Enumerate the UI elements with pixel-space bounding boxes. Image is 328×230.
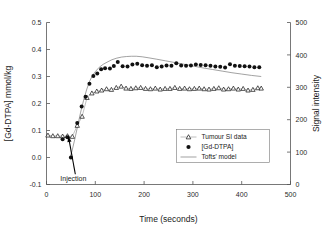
marker-tumour-si — [90, 91, 94, 95]
marker-tumour-si — [153, 86, 157, 90]
y-tick-label: 0.4 — [32, 46, 42, 53]
marker-tumour-si — [173, 85, 177, 89]
x-axis-ticks: 0100200300400500 — [45, 181, 297, 198]
y-tick-label: 0.5 — [32, 19, 42, 26]
marker-tumour-si — [197, 86, 201, 90]
marker-gd-dtpa — [116, 60, 120, 64]
marker-gd-dtpa — [135, 62, 139, 66]
marker-gd-dtpa — [204, 63, 208, 67]
injection-label: Injection — [60, 175, 86, 183]
marker-tumour-si — [241, 86, 245, 90]
legend-item-label: Tofts' model — [202, 153, 238, 160]
marker-gd-dtpa — [126, 65, 130, 69]
marker-gd-dtpa — [243, 64, 247, 68]
y2-axis-title: Signal intensity — [311, 74, 321, 132]
marker-gd-dtpa — [108, 66, 112, 70]
marker-gd-dtpa — [91, 74, 95, 78]
series-line-tumour-si — [48, 86, 261, 136]
marker-gd-dtpa — [160, 65, 164, 69]
marker-gd-dtpa — [130, 63, 134, 67]
annotation-layer: Injection — [60, 137, 86, 184]
y2-tick-label: 500 — [296, 19, 308, 26]
marker-gd-dtpa — [145, 64, 149, 68]
marker-gd-dtpa — [155, 65, 159, 69]
x-tick-label: 0 — [45, 191, 49, 198]
marker-gd-dtpa — [140, 63, 144, 67]
marker-gd-dtpa — [194, 63, 198, 67]
x-tick-label: 100 — [89, 191, 101, 198]
marker-gd-dtpa — [87, 82, 91, 86]
marker-gd-dtpa — [223, 66, 227, 70]
marker-gd-dtpa — [179, 63, 183, 67]
marker-gd-dtpa — [174, 61, 178, 65]
marker-gd-dtpa — [121, 64, 125, 68]
y2-tick-label: 300 — [296, 84, 308, 91]
y-tick-label: -0.1 — [29, 181, 41, 188]
x-axis-title: Time (seconds) — [139, 214, 197, 224]
axis-titles: Time (seconds)[Gd-DTPA] mmol/kgSignal in… — [3, 66, 321, 224]
marker-gd-dtpa — [189, 63, 193, 67]
x-tick-label: 200 — [138, 191, 150, 198]
y2-tick-label: 400 — [296, 52, 308, 59]
x-tick-label: 500 — [285, 191, 297, 198]
chart-figure: 0100200300400500 -0.10.00.10.20.30.40.5 … — [0, 0, 328, 230]
legend-marker-gd-dtpa — [186, 145, 190, 149]
marker-gd-dtpa — [208, 64, 212, 68]
marker-gd-dtpa — [213, 65, 217, 69]
marker-tumour-si — [138, 85, 142, 89]
marker-gd-dtpa — [165, 63, 169, 67]
y2-tick-label: 100 — [296, 149, 308, 156]
y-axis-title: [Gd-DTPA] mmol/kg — [3, 66, 13, 142]
marker-tumour-si — [231, 86, 235, 90]
marker-gd-dtpa — [218, 65, 222, 69]
marker-gd-dtpa — [61, 137, 65, 141]
marker-gd-dtpa — [80, 104, 84, 108]
marker-gd-dtpa — [75, 121, 79, 125]
marker-tumour-si — [80, 114, 84, 118]
y-tick-label: 0.0 — [32, 154, 42, 161]
marker-gd-dtpa — [150, 63, 154, 67]
y2-tick-label: 0 — [296, 181, 300, 188]
marker-gd-dtpa — [257, 65, 261, 69]
marker-tumour-si — [119, 84, 123, 88]
legend-item-label: Tumour SI data — [202, 133, 248, 140]
x-tick-label: 300 — [187, 191, 199, 198]
marker-gd-dtpa — [84, 95, 88, 99]
marker-tumour-si — [251, 87, 255, 91]
marker-tumour-si — [182, 86, 186, 90]
marker-tumour-si — [104, 87, 108, 91]
marker-gd-dtpa — [95, 72, 99, 76]
legend-item-label: [Gd-DTPA] — [202, 143, 234, 151]
marker-gd-dtpa — [169, 64, 173, 68]
marker-gd-dtpa — [103, 66, 107, 70]
marker-gd-dtpa — [199, 63, 203, 67]
marker-tumour-si — [124, 86, 128, 90]
marker-gd-dtpa — [184, 64, 188, 68]
y2-tick-label: 200 — [296, 116, 308, 123]
marker-gd-dtpa — [228, 62, 232, 66]
marker-gd-dtpa — [252, 65, 256, 69]
marker-tumour-si — [217, 86, 221, 90]
y-axis-ticks: -0.10.00.10.20.30.40.5 — [29, 19, 50, 188]
y2-axis-ticks: 0100200300400500 — [287, 19, 307, 188]
chart-canvas: 0100200300400500 -0.10.00.10.20.30.40.5 … — [0, 0, 328, 230]
y-tick-label: 0.3 — [32, 73, 42, 80]
y-tick-label: 0.2 — [32, 100, 42, 107]
marker-gd-dtpa — [112, 64, 116, 68]
chart-legend: Tumour SI data[Gd-DTPA]Tofts' model — [177, 130, 270, 163]
marker-gd-dtpa — [233, 64, 237, 68]
y-tick-label: 0.1 — [32, 127, 42, 134]
marker-gd-dtpa — [248, 65, 252, 69]
x-tick-label: 400 — [236, 191, 248, 198]
marker-gd-dtpa — [238, 64, 242, 68]
marker-gd-dtpa — [99, 67, 103, 71]
